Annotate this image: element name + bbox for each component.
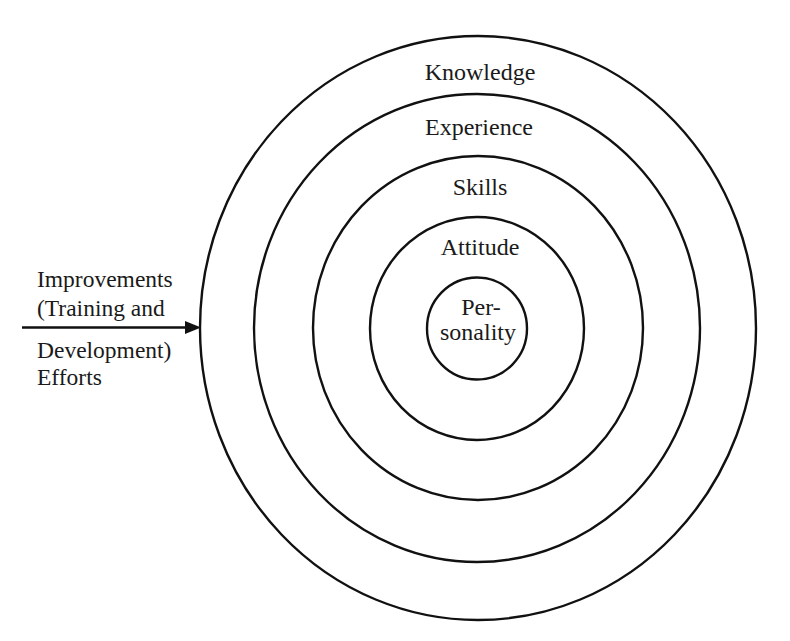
competency-concentric-diagram: Knowledge Experience Skills Attitude Per… [0,0,790,641]
label-personality-line1: Per- [461,294,501,320]
arrow-label-line2: (Training and [37,295,165,321]
label-experience: Experience [425,114,533,140]
arrow-head-icon [185,321,201,334]
arrow-label-line4: Efforts [37,364,102,390]
label-personality-line2: sonality [440,319,516,345]
label-knowledge: Knowledge [425,59,536,85]
label-skills: Skills [453,174,508,200]
label-attitude: Attitude [441,234,520,260]
arrow-label-line1: Improvements [37,266,173,292]
arrow-label-line3: Development) [37,337,171,363]
